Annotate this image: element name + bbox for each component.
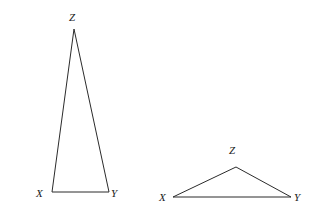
left-triangle-vertex-label-z: Z [69, 12, 75, 23]
triangles-svg [0, 0, 329, 219]
left-triangle-outline [52, 29, 109, 192]
right-triangle-vertex-label-y: Y [294, 192, 300, 203]
left-triangle-vertex-label-y: Y [111, 188, 117, 199]
right-triangle-outline [173, 167, 291, 197]
right-triangle-vertex-label-z: Z [229, 145, 235, 156]
right-triangle-vertex-label-x: X [159, 192, 166, 203]
left-triangle-vertex-label-x: X [36, 188, 43, 199]
figure-canvas: Z X Y Z X Y [0, 0, 329, 219]
